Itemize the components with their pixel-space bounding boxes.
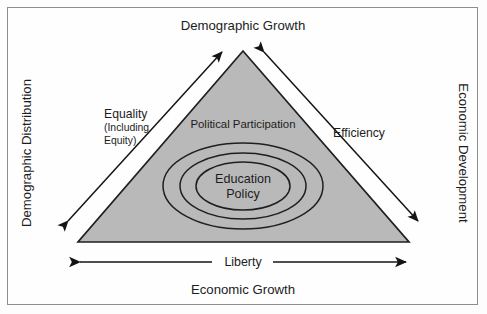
label-political-participation: Political Participation — [190, 118, 295, 130]
label-efficiency: Efficiency — [333, 126, 386, 140]
diagram-canvas: Demographic Growth Economic Growth Demog… — [0, 0, 487, 314]
label-economic-growth: Economic Growth — [191, 282, 295, 297]
label-equality-sub-equity: Equity) — [104, 135, 136, 146]
figure-root: Demographic Growth Economic Growth Demog… — [0, 0, 487, 314]
label-demographic-growth: Demographic Growth — [181, 18, 306, 33]
label-education-policy-line1: Education — [215, 172, 271, 186]
label-economic-development: Economic Development — [456, 83, 471, 223]
label-liberty: Liberty — [224, 255, 262, 269]
label-equality-sub-including: (Including — [104, 122, 149, 133]
label-equality-main: Equality — [104, 107, 148, 121]
label-demographic-distribution: Demographic Distribution — [19, 79, 34, 227]
label-education-policy-line2: Policy — [226, 187, 260, 201]
main-triangle — [78, 51, 409, 242]
